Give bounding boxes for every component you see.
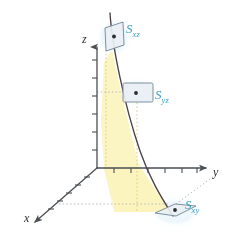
surface-label-xy-base: S bbox=[185, 197, 192, 212]
surface-patch-yz[interactable] bbox=[123, 83, 153, 102]
x-axis-label: x bbox=[24, 212, 29, 224]
figure-canvas: z y x Sxz Syz Sxy bbox=[0, 0, 233, 240]
x-axis-ticks bbox=[48, 177, 90, 209]
z-axis-label: z bbox=[82, 33, 87, 45]
surface-label-xz-sub: xz bbox=[133, 29, 140, 39]
y-axis-label: y bbox=[213, 166, 218, 178]
surface-label-xy: Sxy bbox=[185, 198, 199, 214]
surface-label-xz-base: S bbox=[126, 21, 133, 36]
surface-label-yz-base: S bbox=[155, 87, 162, 102]
surface-label-xz: Sxz bbox=[126, 22, 140, 38]
z-axis-ticks bbox=[92, 60, 97, 150]
surface-label-xy-sub: xy bbox=[192, 205, 200, 215]
surface-label-yz: Syz bbox=[155, 88, 169, 104]
x-axis bbox=[35, 168, 97, 222]
surface-label-yz-sub: yz bbox=[162, 95, 169, 105]
